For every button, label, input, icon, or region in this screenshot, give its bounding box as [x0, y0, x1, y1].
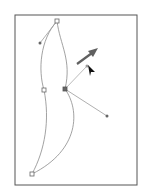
handle-point-upper-right[interactable]	[86, 65, 89, 68]
artboard-frame	[15, 15, 137, 185]
handle-point-lower-right[interactable]	[106, 115, 109, 118]
anchor-center-selected[interactable]	[63, 87, 67, 91]
anchor-left-middle[interactable]	[42, 88, 46, 92]
anchor-bottom[interactable]	[30, 172, 34, 176]
diagram-canvas	[0, 0, 145, 193]
anchor-top[interactable]	[55, 19, 59, 23]
handle-point-top-left[interactable]	[39, 42, 42, 45]
